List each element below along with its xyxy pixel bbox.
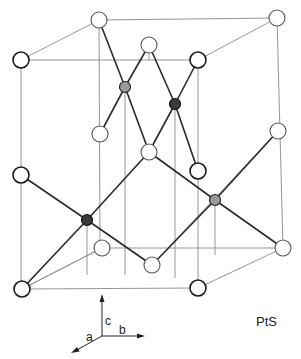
axes-indicator: c b a [71, 294, 145, 353]
platinum-atom [170, 99, 181, 110]
axis-label-b: b [119, 323, 126, 337]
axis-label-a: a [86, 330, 93, 344]
sulfur-atom [144, 257, 160, 273]
compound-label: PtS [256, 314, 277, 329]
sulfur-atom [190, 163, 206, 179]
sulfur-atom [190, 52, 206, 68]
sulfur-atom [269, 10, 285, 26]
axis-label-c: c [105, 314, 111, 328]
sulfur-atom [141, 144, 157, 160]
platinum-atom [82, 215, 93, 226]
sulfur-atom [91, 12, 107, 28]
sulfur-atom [13, 52, 29, 68]
platinum-atom [210, 195, 221, 206]
platinum-atom [120, 82, 131, 93]
sulfur-atom [14, 281, 30, 297]
sulfur-atom [13, 167, 29, 183]
pts-crystal-structure: c b a [0, 0, 301, 359]
sulfur-atom [92, 126, 108, 142]
sulfur-atom [190, 280, 206, 296]
sulfur-atom [275, 240, 291, 256]
sulfur-atom [94, 240, 110, 256]
sulfur-atom [141, 37, 157, 53]
sulfur-atom [270, 123, 286, 139]
